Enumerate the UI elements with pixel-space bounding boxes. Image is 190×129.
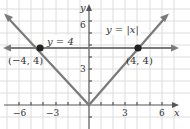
y-axis-arrow-icon xyxy=(86,4,92,11)
point-right xyxy=(134,44,141,51)
y-axis-label: y xyxy=(79,2,86,13)
point-left xyxy=(36,44,43,51)
x-tick-neg6: −6 xyxy=(13,108,27,118)
graph-canvas: y = 4 y = |x| (−4, 4) (4, 4) y x −6 −3 3… xyxy=(0,0,190,129)
x-tick-6: 6 xyxy=(159,108,165,118)
point-label-left: (−4, 4) xyxy=(8,55,43,66)
y-tick-3: 3 xyxy=(80,64,86,74)
x-tick-3: 3 xyxy=(122,108,128,118)
point-label-right: (4, 4) xyxy=(126,55,153,66)
line-label-absx: y = |x| xyxy=(105,24,139,36)
line-label-y4: y = 4 xyxy=(46,36,74,47)
y-axis xyxy=(89,8,92,129)
y-tick-6: 6 xyxy=(80,20,86,30)
x-tick-neg3: −3 xyxy=(46,108,60,118)
x-axis-label: x xyxy=(174,107,180,118)
right-arrow-icon xyxy=(171,45,179,52)
